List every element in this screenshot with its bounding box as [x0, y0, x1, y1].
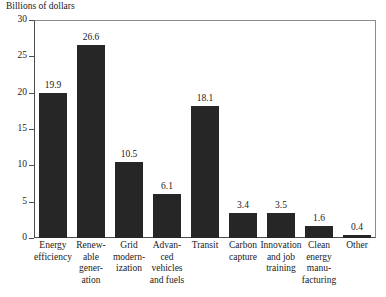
y-axis-tick-mark — [29, 238, 34, 239]
bar[interactable] — [115, 162, 143, 238]
x-axis-category-label: Other — [334, 240, 380, 252]
y-axis-tick-label: 15 — [18, 123, 28, 134]
bar[interactable] — [191, 106, 219, 238]
bar-value-label: 18.1 — [197, 93, 214, 104]
bar-slot: 18.1 — [186, 20, 224, 238]
y-axis-tick-label: 20 — [18, 87, 28, 98]
bar[interactable] — [77, 45, 105, 238]
bar[interactable] — [305, 226, 333, 238]
y-axis-tick-label: 5 — [22, 196, 27, 207]
y-axis-tick-label: 0 — [22, 232, 27, 243]
y-axis-tick-label: 25 — [18, 50, 28, 61]
bar-slot: 26.6 — [72, 20, 110, 238]
bar-slot: 0.4 — [338, 20, 376, 238]
bar[interactable] — [267, 213, 295, 238]
bar-slot: 3.4 — [224, 20, 262, 238]
bar-slot: 1.6 — [300, 20, 338, 238]
bars-layer: 19.926.610.56.118.13.43.51.60.4 — [34, 20, 376, 238]
bar-value-label: 3.4 — [237, 200, 249, 211]
bar-slot: 10.5 — [110, 20, 148, 238]
y-axis-tick-label: 10 — [18, 159, 28, 170]
bar[interactable] — [39, 93, 67, 238]
bar[interactable] — [343, 235, 371, 238]
bar-value-label: 6.1 — [161, 181, 173, 192]
chart-axis-title: Billions of dollars — [6, 1, 75, 12]
x-axis-labels: Energy efficiencyRenew- able gener- atio… — [34, 240, 376, 297]
y-axis-tick-label: 30 — [18, 14, 28, 25]
bar-chart: Billions of dollars 051015202530 19.926.… — [0, 0, 386, 297]
bar[interactable] — [153, 194, 181, 238]
bar-value-label: 0.4 — [351, 222, 363, 233]
bar[interactable] — [229, 213, 257, 238]
bar-slot: 6.1 — [148, 20, 186, 238]
bar-value-label: 26.6 — [83, 32, 100, 43]
bar-slot: 3.5 — [262, 20, 300, 238]
bar-value-label: 3.5 — [275, 200, 287, 211]
bar-value-label: 10.5 — [121, 149, 138, 160]
bar-value-label: 19.9 — [45, 80, 62, 91]
bar-value-label: 1.6 — [313, 213, 325, 224]
bar-slot: 19.9 — [34, 20, 72, 238]
